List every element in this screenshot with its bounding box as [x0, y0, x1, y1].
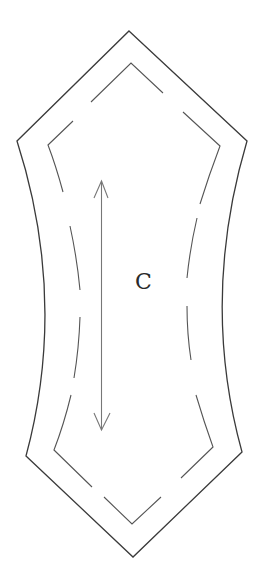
piece-label: C [135, 271, 152, 293]
seam-segment-upper-right [183, 112, 220, 204]
seam-segment-top [91, 63, 163, 102]
seam-segment-upper-left [48, 121, 73, 192]
seam-segment-right-2 [187, 306, 191, 360]
seam-segment-lower-left [54, 395, 92, 487]
seam-segment-left-1 [70, 226, 80, 290]
seam-segment-left-2 [74, 317, 80, 378]
cut-line [17, 31, 247, 557]
grainline-arrow [94, 181, 110, 430]
seam-segment-right-1 [187, 218, 197, 278]
seam-segment-bottom [104, 497, 161, 524]
seam-segment-lower-right [181, 395, 213, 478]
seam-line [48, 63, 220, 524]
pattern-piece-diagram [0, 0, 262, 585]
